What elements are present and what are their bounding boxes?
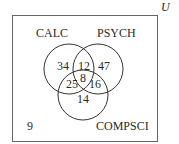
region-calc-compsci: 25 — [66, 78, 78, 90]
region-all-three: 8 — [80, 72, 86, 84]
region-outside: 9 — [27, 120, 33, 132]
region-calc-only: 34 — [57, 60, 69, 72]
region-psych-compsci: 16 — [89, 78, 101, 90]
set-label-psych: PSYCH — [97, 27, 136, 39]
set-label-compsci: COMPSCI — [96, 120, 149, 132]
region-psych-only: 47 — [98, 60, 110, 72]
set-label-calc: CALC — [36, 27, 68, 39]
region-compsci-only: 14 — [77, 93, 89, 105]
universe-label: U — [161, 1, 170, 13]
